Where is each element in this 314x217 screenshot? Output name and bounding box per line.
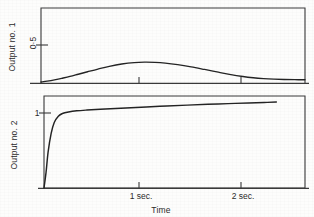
x-axis-label: Time bbox=[140, 205, 182, 215]
panel-2-data-curve bbox=[44, 102, 276, 188]
panel-2-x-tick-label-1sec: 1 sec. bbox=[123, 191, 159, 201]
panel-1-y-axis-label: Output no. 1 bbox=[7, 16, 17, 78]
panel-2-y-axis-label: Output no. 2 bbox=[9, 114, 19, 176]
plot-canvas bbox=[0, 0, 314, 217]
figure-two-panel-response-plot: Output no. 1 0·5 Output no. 2 1 1 sec. 2… bbox=[0, 0, 314, 217]
panel-1-data-curve bbox=[41, 62, 305, 82]
panel-2-frame bbox=[38, 96, 309, 188]
panel-1-y-tick-label: 0·5 bbox=[28, 32, 38, 54]
panel-1-frame bbox=[30, 8, 309, 83]
panel-2-y-tick-label: 1 bbox=[32, 108, 42, 118]
panel-2-x-tick-label-2sec: 2 sec. bbox=[225, 191, 261, 201]
